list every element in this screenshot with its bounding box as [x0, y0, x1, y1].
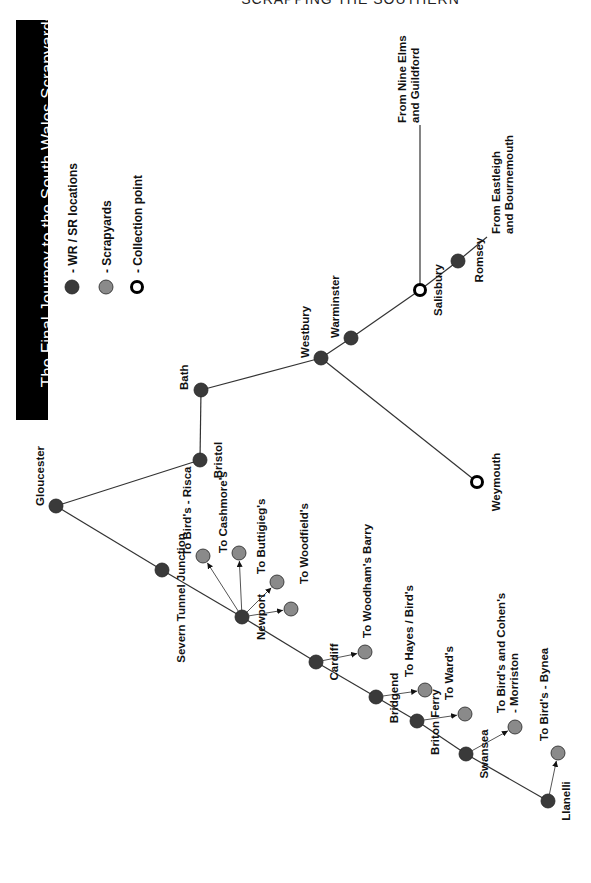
legend-wr_sr-icon [65, 280, 79, 294]
node-bath-icon [194, 383, 208, 397]
arrow-to-birds_bynea [549, 761, 556, 794]
label-wards: To Ward's [443, 646, 455, 700]
node-llanelli-icon [541, 794, 555, 808]
node-westbury-icon [314, 351, 328, 365]
arrow-to-birds_risca [207, 563, 238, 611]
label-salisbury: Salisbury [432, 264, 444, 316]
scrapyard-hayes_birds-icon [418, 683, 432, 697]
label-gloucester: Gloucester [34, 445, 46, 506]
label-cardiff: Cardiff [328, 643, 340, 680]
arrow-to-cashmores [239, 561, 241, 610]
node-bristol-icon [193, 453, 207, 467]
incoming-routes: From Nine Elmsand GuildfordFrom Eastleig… [396, 35, 515, 290]
route-line [351, 290, 420, 338]
label-bridgend: Bridgend [388, 673, 400, 723]
label-birds_bynea: To Bird's - Bynea [538, 647, 550, 741]
label-swansea: Swansea [478, 729, 490, 779]
label-birds_cohens: To Bird's and Cohen's- Morriston [495, 593, 520, 713]
node-weymouth-icon [472, 477, 483, 488]
scrapyard-wards-icon [458, 707, 472, 721]
feed-label-eastleigh: From Eastleighand Bournemouth [490, 135, 515, 234]
location-nodes: GloucesterBristolBathWestburyWarminsterS… [34, 237, 572, 821]
route-line [417, 721, 466, 754]
node-newport-icon [235, 610, 249, 624]
label-briton_ferry: Briton Ferry [429, 688, 441, 754]
feed-label-nine_elms: From Nine Elmsand Guildford [396, 35, 421, 123]
label-westbury: Westbury [299, 305, 311, 358]
node-severn-icon [155, 563, 169, 577]
rail-network-diagram: From Nine Elmsand GuildfordFrom Eastleig… [0, 0, 591, 883]
scrapyard-woodhams_barry-icon [358, 645, 372, 659]
node-bridgend-icon [369, 690, 383, 704]
label-hayes_birds: To Hayes / Bird's [403, 585, 415, 677]
legend: - WR / SR locations- Scrapyards- Collect… [65, 163, 145, 294]
scrapyard-birds_bynea-icon [551, 746, 565, 760]
label-warminster: Warminster [329, 275, 341, 338]
label-llanelli: Llanelli [560, 781, 572, 821]
route-line [162, 570, 242, 617]
legend-label-collection: - Collection point [131, 175, 145, 273]
node-swansea-icon [459, 747, 473, 761]
scrapyard-birds_risca-icon [196, 549, 210, 563]
label-birds_risca: To Bird's - Risca [181, 466, 193, 556]
node-salisbury-icon [415, 285, 426, 296]
node-briton_ferry-icon [410, 714, 424, 728]
label-cashmores: To Cashmore's [217, 471, 229, 553]
route-line [316, 662, 376, 697]
label-bath: Bath [178, 364, 190, 390]
route-line [56, 460, 200, 506]
scrapyard-birds_cohens-icon [508, 720, 522, 734]
label-romsey: Romsey [473, 237, 485, 282]
label-weymouth: Weymouth [490, 453, 502, 512]
legend-collection-icon [132, 282, 143, 293]
label-newport: Newport [255, 594, 267, 640]
route-line [321, 358, 477, 482]
route-line [200, 390, 201, 460]
legend-label-scrapyard: - Scrapyards [100, 200, 114, 273]
scrapyard-buttigiegs-icon [270, 575, 284, 589]
node-gloucester-icon [49, 499, 63, 513]
node-warminster-icon [344, 331, 358, 345]
node-cardiff-icon [309, 655, 323, 669]
route-line [201, 358, 321, 390]
label-woodhams_barry: To Woodham's Barry [361, 523, 373, 638]
node-romsey-icon [451, 254, 465, 268]
scrapyard-cashmores-icon [232, 546, 246, 560]
scrapyard-woodfields-icon [284, 602, 298, 616]
label-buttigiegs: To Buttigieg's [255, 499, 267, 574]
legend-scrapyard-icon [99, 280, 113, 294]
legend-label-wr_sr: - WR / SR locations [66, 163, 80, 273]
route-line [242, 617, 316, 662]
label-woodfields: To Woodfield's [298, 503, 310, 584]
route-line [56, 506, 162, 570]
